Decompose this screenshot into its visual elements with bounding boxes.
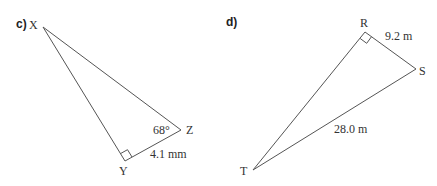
vertex-label-t: T: [240, 164, 247, 179]
vertex-label-r: R: [360, 16, 368, 31]
triangle-xyz: [43, 27, 181, 161]
vertex-label-z: Z: [186, 123, 193, 138]
vertex-label-y: Y: [119, 164, 128, 179]
vertex-label-s: S: [419, 64, 426, 79]
side-label-yz: 4.1 mm: [150, 147, 187, 162]
part-label-d: d): [226, 15, 237, 29]
side-label-st: 28.0 m: [334, 122, 367, 137]
part-label-c: c): [16, 17, 27, 31]
right-angle-marker-r: [360, 37, 371, 44]
angle-label-z: 68°: [153, 123, 170, 138]
triangles-figure: [0, 0, 437, 186]
vertex-label-x: X: [29, 18, 38, 33]
side-label-rs: 9.2 m: [385, 29, 412, 44]
triangle-rst: [253, 32, 416, 170]
